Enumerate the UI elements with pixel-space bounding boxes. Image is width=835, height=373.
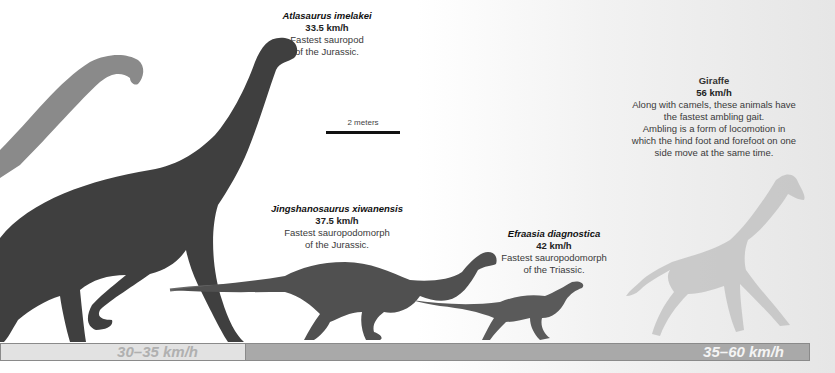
efraasia-desc-1: Fastest sauropodomorph [501,252,607,264]
scale-bar-label: 2 meters [326,118,400,127]
atlasaurus-icon [0,38,300,342]
giraffe-name: Giraffe [632,75,796,87]
atlasaurus-speed: 33.5 km/h [282,22,371,34]
giraffe-desc-5: side move at the same time. [632,147,796,159]
atlasaurus-label: Atlasaurus imelakei 33.5 km/h Fastest sa… [282,10,371,58]
efraasia-speed: 42 km/h [501,240,607,252]
giraffe-speed: 56 km/h [632,87,796,99]
jingshanosaurus-desc-2: of the Jurassic. [271,239,403,251]
efraasia-label: Efraasia diagnostica 42 km/h Fastest sau… [501,228,607,276]
illustration [0,0,835,373]
scale-bar-line [326,131,400,134]
giraffe-label: Giraffe 56 km/h Along with camels, these… [632,75,796,159]
atlasaurus-name: Atlasaurus imelakei [282,10,371,22]
jingshanosaurus-speed: 37.5 km/h [271,215,403,227]
jingshanosaurus-name: Jingshanosaurus xiwanensis [271,203,403,215]
efraasia-name: Efraasia diagnostica [501,228,607,240]
atlasaurus-desc-1: Fastest sauropod [282,34,371,46]
scale-bar: 2 meters [326,118,400,134]
giraffe-desc-1: Along with camels, these animals have [632,99,796,111]
jingshanosaurus-label: Jingshanosaurus xiwanensis 37.5 km/h Fas… [271,203,403,251]
efraasia-desc-2: of the Triassic. [501,264,607,276]
giraffe-desc-3: Ambling is a form of locomotion in [632,123,796,135]
speed-range-slow: 30–35 km/h [0,343,246,361]
atlasaurus-desc-2: of the Jurassic. [282,46,371,58]
giraffe-icon [626,174,805,336]
giraffe-desc-4: which the hind foot and forefoot on one [632,135,796,147]
giraffe-desc-2: the fastest ambling gait. [632,111,796,123]
sauropod-background-icon [0,55,143,178]
jingshanosaurus-desc-1: Fastest sauropodomorph [271,227,403,239]
speed-range-fast: 35–60 km/h [245,343,810,361]
